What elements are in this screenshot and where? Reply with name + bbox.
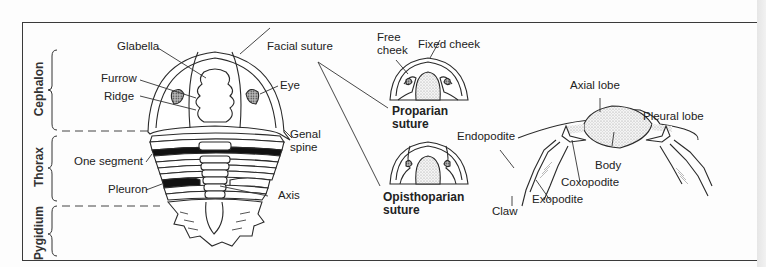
trilobite-dorsal (148, 52, 290, 246)
label-free: Free (377, 31, 401, 44)
label-ridge: Ridge (104, 90, 134, 103)
label-axis: Axis (278, 189, 300, 202)
region-label-cephalon: Cephalon (32, 54, 46, 124)
label-fixed-cheek: Fixed cheek (418, 38, 480, 51)
label-glabella: Glabella (117, 40, 159, 53)
region-label-pygidium: Pygidium (32, 194, 46, 267)
region-braces (48, 50, 57, 256)
label-spine: spine (290, 141, 318, 154)
label-proparian-suture: suture (392, 117, 429, 131)
label-cheek: cheek (377, 44, 408, 57)
label-pleuron: Pleuron (108, 183, 148, 196)
label-endopodite: Endopodite (457, 130, 515, 143)
label-proparian: Proparian (392, 104, 448, 118)
label-pleural-lobe: Pleural lobe (643, 110, 704, 123)
label-exopodite: Exopodite (532, 193, 583, 206)
region-label-thorax: Thorax (32, 138, 46, 196)
opisthoparian-head (390, 142, 468, 184)
label-one-segment: One segment (74, 155, 143, 168)
label-axial-lobe: Axial lobe (570, 79, 620, 92)
axis-rings (199, 142, 231, 198)
label-body: Body (595, 159, 621, 172)
label-genal: Genal (290, 128, 321, 141)
label-coxopodite: Coxopodite (561, 176, 619, 189)
label-eye: Eye (280, 79, 300, 92)
label-claw: Claw (492, 205, 518, 218)
diagram-page: Cephalon Thorax Pygidium Glabella Furrow… (0, 0, 766, 267)
label-facial-suture: Facial suture (267, 40, 333, 53)
label-furrow: Furrow (101, 72, 137, 85)
label-opisthoparian-suture: suture (383, 203, 420, 217)
label-opisthoparian: Opisthoparian (383, 190, 464, 204)
proparian-head (390, 58, 468, 100)
